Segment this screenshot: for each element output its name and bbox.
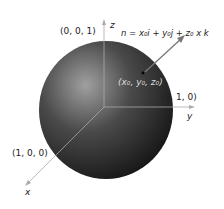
- z-axis-label: z: [110, 20, 115, 30]
- normal-vector-label: n = x₀i + y₀j + z₀ x k: [121, 28, 209, 38]
- z-intercept-label: (0, 0, 1): [60, 26, 96, 36]
- y-intercept-label: (0, 1, 0): [161, 92, 197, 102]
- z-axis-arrow-icon: [102, 19, 106, 25]
- y-axis-label: y: [187, 111, 192, 121]
- x-axis-label: x: [25, 187, 30, 197]
- surface-point: [142, 72, 145, 75]
- y-axis-arrow-icon: [189, 105, 195, 109]
- surface-point-label: (x₀, y₀, z₀): [118, 77, 163, 87]
- x-intercept-label: (1, 0, 0): [12, 148, 48, 158]
- normal-vector: [145, 38, 182, 72]
- unit-sphere: [39, 41, 173, 179]
